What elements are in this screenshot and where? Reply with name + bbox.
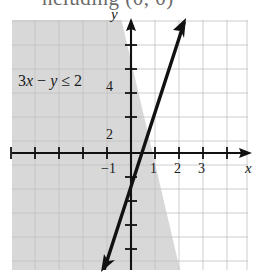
y-tick-label-2: 2 [106, 127, 113, 143]
x-tick-label-neg1: −1 [101, 161, 116, 177]
y-tick-label-4: 4 [106, 79, 113, 95]
inequality-annotation: 3x − y ≤ 2 [18, 72, 82, 90]
inequality-relation: ≤ 2 [57, 72, 82, 89]
x-tick-label-3: 3 [198, 161, 205, 177]
x-axis-label: x [245, 160, 252, 177]
inequality-graph [0, 0, 260, 275]
x-tick-label-2: 2 [174, 161, 181, 177]
inequality-coefficient: 3 [18, 72, 26, 89]
x-tick-label-1: 1 [150, 161, 157, 177]
inequality-operator: − [33, 72, 50, 89]
y-axis-label: y [111, 6, 118, 23]
